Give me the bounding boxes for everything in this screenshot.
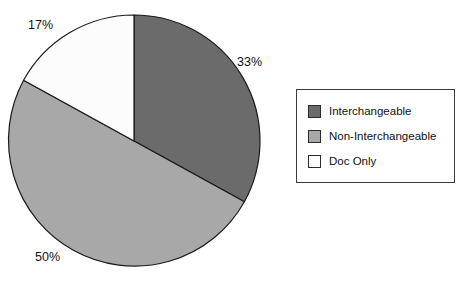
chart-legend: Interchangeable Non-Interchangeable Doc … <box>296 89 455 183</box>
legend-item-non-interchangeable[interactable]: Non-Interchangeable <box>308 129 454 144</box>
legend-item-doc-only[interactable]: Doc Only <box>308 154 454 169</box>
legend-label-doc-only: Doc Only <box>329 155 376 168</box>
legend-swatch-icon-interchangeable <box>308 105 321 118</box>
legend-swatch-icon-non-interchangeable <box>308 130 321 143</box>
legend-label-non-interchangeable: Non-Interchangeable <box>329 130 436 143</box>
legend-swatch-icon-doc-only <box>308 155 321 168</box>
pie-label-doc-only-pct: 17% <box>28 18 53 32</box>
pie-label-interchangeable-pct: 33% <box>237 55 262 69</box>
legend-rows: Interchangeable Non-Interchangeable Doc … <box>297 90 454 182</box>
legend-item-interchangeable[interactable]: Interchangeable <box>308 104 454 119</box>
legend-label-interchangeable: Interchangeable <box>329 105 411 118</box>
pie-chart-figure: 33% 50% 17% Interchangeable Non-Intercha… <box>0 0 468 283</box>
pie-label-non-interchangeable-pct: 50% <box>35 250 60 264</box>
